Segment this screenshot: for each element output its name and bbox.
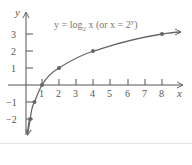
svg-text:2: 2: [56, 88, 61, 99]
svg-text:−1: −1: [6, 97, 17, 108]
svg-text:3: 3: [11, 29, 16, 40]
point-half: [33, 100, 37, 104]
log-function-chart: y x 1 2 3 4 5 6 7 8 3 2 1 −1 −2 y = lo: [0, 0, 192, 145]
log-curve: [28, 32, 182, 134]
x-axis-label: x: [176, 87, 182, 99]
chart-title: y = log2 x (or x = 2y): [54, 18, 138, 33]
y-axis-label: y: [14, 6, 20, 18]
point-4: [91, 49, 95, 53]
svg-text:5: 5: [107, 88, 112, 99]
svg-text:6: 6: [125, 88, 130, 99]
point-quarter: [28, 117, 32, 121]
point-8: [160, 32, 164, 36]
svg-text:7: 7: [142, 88, 147, 99]
svg-text:4: 4: [90, 88, 95, 99]
svg-text:8: 8: [159, 88, 164, 99]
y-ticks: [26, 34, 33, 119]
x-tick-labels: 1 2 3 4 5 6 7 8: [39, 88, 164, 99]
point-2: [57, 66, 61, 70]
svg-text:1: 1: [11, 63, 16, 74]
y-tick-labels: 3 2 1 −1 −2: [6, 29, 17, 125]
divider: [0, 143, 192, 144]
svg-text:3: 3: [73, 88, 78, 99]
point-1: [40, 83, 44, 87]
x-ticks: [42, 79, 162, 85]
svg-text:−2: −2: [6, 114, 17, 125]
svg-text:2: 2: [11, 46, 16, 57]
